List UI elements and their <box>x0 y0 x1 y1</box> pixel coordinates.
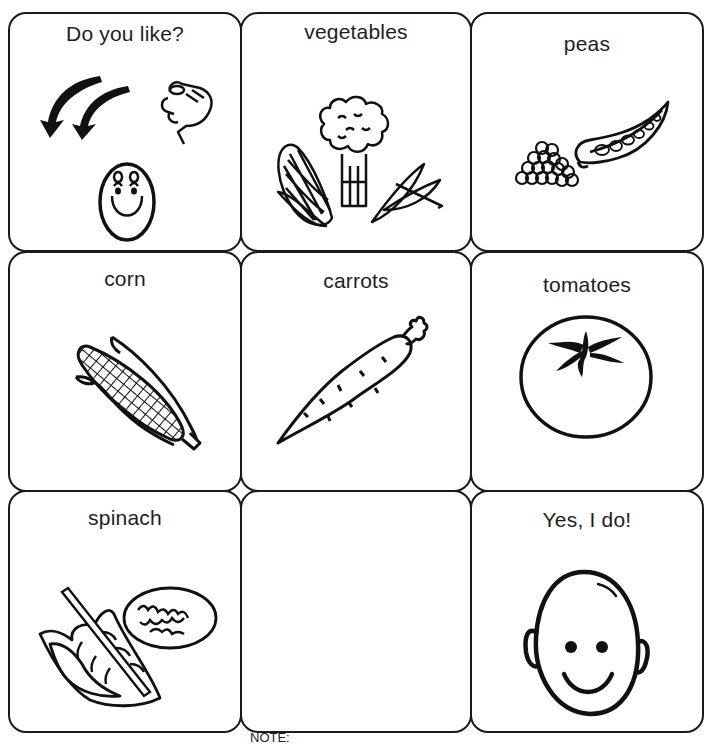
card-peas[interactable]: peas <box>470 12 704 252</box>
peas-pod-icon <box>472 14 706 254</box>
card-empty[interactable] <box>240 490 472 733</box>
card-yes-i-do[interactable]: Yes, I do! <box>470 490 704 733</box>
vegetables-corn-broccoli-beans-icon <box>242 14 474 254</box>
card-spinach[interactable]: spinach <box>8 490 242 733</box>
card-carrots[interactable]: carrots <box>240 251 472 492</box>
carrot-icon <box>242 253 474 494</box>
spinach-leaves-icon <box>10 492 244 735</box>
card-corn[interactable]: corn <box>8 251 242 492</box>
question-arrows-pointing-hand-egg-face-icon <box>10 14 244 254</box>
corn-cob-icon <box>10 253 244 494</box>
tomato-icon <box>472 253 706 494</box>
card-tomatoes[interactable]: tomatoes <box>470 251 704 492</box>
card-do-you-like[interactable]: Do you like? <box>8 12 242 252</box>
smiling-face-icon <box>472 492 706 735</box>
card-vegetables[interactable]: vegetables <box>240 12 472 252</box>
footer-note: NOTE: <box>250 731 290 745</box>
